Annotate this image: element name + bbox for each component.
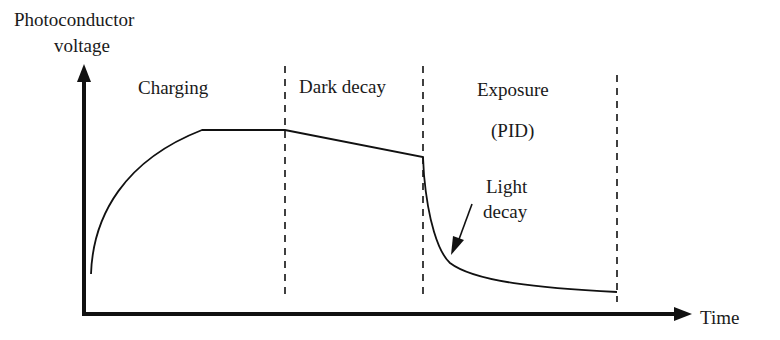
y-axis-arrow-icon — [77, 64, 91, 82]
phase-label-dark-decay: Dark decay — [299, 76, 387, 97]
phase-label-pid: (PID) — [491, 120, 534, 142]
y-axis — [77, 64, 91, 315]
annotation-decay: decay — [483, 201, 528, 222]
x-axis-arrow-icon — [674, 307, 692, 321]
y-axis-label-line2: voltage — [54, 35, 110, 56]
x-axis-label: Time — [700, 307, 739, 328]
annotation-light: Light — [486, 176, 528, 197]
phase-label-exposure: Exposure — [477, 79, 549, 100]
photoconductor-voltage-diagram: Photoconductor voltage Charging Dark dec… — [0, 0, 780, 340]
y-axis-label-line1: Photoconductor — [14, 9, 135, 30]
voltage-curve — [91, 130, 617, 292]
x-axis — [82, 307, 692, 321]
light-decay-arrow — [451, 204, 472, 255]
phase-label-charging: Charging — [138, 77, 209, 98]
phase-dividers — [285, 66, 617, 302]
arrow-icon — [451, 236, 464, 255]
